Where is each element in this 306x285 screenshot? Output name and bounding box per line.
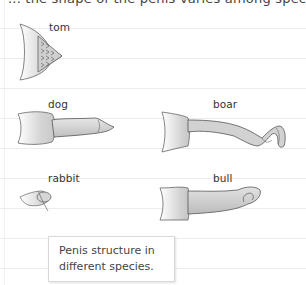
tom-illustration	[12, 22, 68, 82]
ruled-line	[0, 178, 306, 179]
dog-illustration	[14, 110, 118, 148]
label-dog: dog	[48, 98, 68, 110]
label-boar: boar	[213, 98, 237, 110]
rabbit-illustration	[18, 185, 58, 215]
margin-line	[4, 0, 5, 285]
caption-line-2: different species.	[59, 259, 166, 275]
caption-line-1: Penis structure in	[59, 243, 166, 259]
figure-caption: Penis structure in different species.	[48, 236, 175, 282]
textbook-page: ... the shape of the penis varies among …	[0, 0, 306, 285]
label-rabbit: rabbit	[48, 172, 80, 184]
bull-illustration	[158, 184, 264, 222]
boar-illustration	[158, 110, 290, 156]
cut-off-heading: ... the shape of the penis varies among …	[8, 0, 306, 6]
label-bull: bull	[213, 172, 233, 184]
ruled-line	[0, 88, 306, 89]
